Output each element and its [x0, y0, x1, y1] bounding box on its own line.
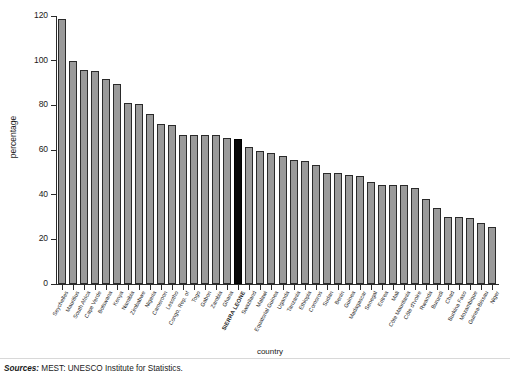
bar-slot — [345, 16, 353, 284]
bar-slot — [411, 16, 419, 284]
bar-slot — [389, 16, 397, 284]
bar-slot — [422, 16, 430, 284]
bar[interactable] — [367, 182, 375, 284]
bar[interactable] — [356, 176, 364, 284]
bar[interactable] — [290, 160, 298, 284]
bar[interactable] — [378, 185, 386, 284]
bar-slot — [356, 16, 364, 284]
x-axis-tick-labels: SeychellesMauritiusSouth AfricaCape Verd… — [56, 290, 499, 352]
y-axis-tick-label: 120 — [34, 10, 48, 21]
bar[interactable] — [444, 217, 452, 284]
bar-slot — [168, 16, 176, 284]
plot-area — [56, 16, 498, 284]
x-axis-tick-label: Mali — [390, 290, 400, 302]
bar-slot — [113, 16, 121, 284]
bar[interactable] — [256, 151, 264, 284]
bar-slot — [80, 16, 88, 284]
bar-slot — [433, 16, 441, 284]
footer-divider — [0, 358, 510, 359]
bar[interactable] — [190, 135, 198, 284]
bar[interactable] — [411, 188, 419, 284]
bar[interactable] — [124, 103, 132, 284]
bar[interactable] — [69, 61, 77, 284]
bar[interactable] — [345, 175, 353, 284]
y-axis-tick-label: 100 — [34, 55, 48, 66]
bar-slot — [312, 16, 320, 284]
bar-slot — [279, 16, 287, 284]
bar[interactable] — [466, 218, 474, 284]
bar[interactable] — [488, 227, 496, 284]
bar[interactable] — [179, 135, 187, 284]
bar[interactable] — [422, 199, 430, 284]
bar-slot — [378, 16, 386, 284]
x-axis-tick-label: Seychelles — [51, 290, 69, 317]
bar-slot — [58, 16, 66, 284]
bar[interactable] — [267, 153, 275, 284]
bar[interactable] — [400, 185, 408, 284]
bar-slot — [69, 16, 77, 284]
bar-slot — [323, 16, 331, 284]
bar[interactable] — [477, 223, 485, 284]
bar[interactable] — [212, 135, 220, 284]
x-axis-title: country — [0, 347, 510, 356]
bar[interactable] — [301, 161, 309, 284]
bar[interactable] — [245, 147, 253, 284]
y-axis-tick-label: 60 — [39, 144, 48, 155]
bar[interactable] — [312, 165, 320, 284]
source-note: Sources: MEST: UNESCO Institute for Stat… — [4, 364, 183, 373]
bar-series — [56, 16, 498, 284]
bar-slot — [201, 16, 209, 284]
bar[interactable] — [146, 114, 154, 284]
bar-slot — [301, 16, 309, 284]
bar-slot — [245, 16, 253, 284]
bar[interactable] — [455, 217, 463, 284]
bar[interactable] — [323, 173, 331, 284]
bar[interactable] — [58, 19, 66, 284]
x-axis-line — [56, 284, 499, 285]
bar-slot — [190, 16, 198, 284]
bar[interactable] — [279, 156, 287, 284]
bar-slot — [367, 16, 375, 284]
bar-highlighted[interactable] — [234, 139, 242, 284]
bar-slot — [267, 16, 275, 284]
bar-slot — [466, 16, 474, 284]
bar[interactable] — [113, 84, 121, 284]
bar-slot — [256, 16, 264, 284]
bar-slot — [234, 16, 242, 284]
bar[interactable] — [433, 208, 441, 284]
bar-slot — [157, 16, 165, 284]
bar-slot — [477, 16, 485, 284]
bar-slot — [488, 16, 496, 284]
y-axis-title: percentage — [8, 116, 18, 159]
bar[interactable] — [334, 173, 342, 284]
bar-slot — [124, 16, 132, 284]
bar-slot — [146, 16, 154, 284]
bar[interactable] — [157, 124, 165, 284]
bar-slot — [223, 16, 231, 284]
y-axis-tick-label: 40 — [39, 189, 48, 200]
x-axis-title-text: country — [257, 347, 283, 356]
bar-slot — [212, 16, 220, 284]
bar[interactable] — [91, 71, 99, 284]
x-axis-tick-label: Niger — [488, 290, 500, 305]
bar-slot — [102, 16, 110, 284]
bar[interactable] — [102, 79, 110, 284]
bar[interactable] — [201, 135, 209, 284]
source-text: MEST: UNESCO Institute for Statistics. — [41, 364, 183, 373]
bar-slot — [135, 16, 143, 284]
chart-figure: 020406080100120 percentage SeychellesMau… — [0, 0, 510, 379]
bar[interactable] — [168, 125, 176, 284]
y-axis-tick-label: 20 — [39, 233, 48, 244]
bar-slot — [455, 16, 463, 284]
bar[interactable] — [389, 185, 397, 284]
bar-slot — [444, 16, 452, 284]
y-axis-tick-label: 80 — [39, 99, 48, 110]
bar[interactable] — [135, 104, 143, 284]
bar-slot — [179, 16, 187, 284]
bar-slot — [334, 16, 342, 284]
y-axis-tick-label: 0 — [43, 278, 48, 289]
bar[interactable] — [80, 70, 88, 284]
bar-slot — [400, 16, 408, 284]
bar-slot — [91, 16, 99, 284]
bar[interactable] — [223, 138, 231, 284]
